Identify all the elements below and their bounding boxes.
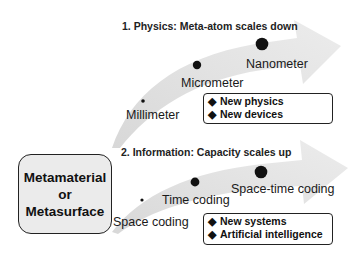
space-time-coding-dot xyxy=(255,166,268,179)
stage-label-space-coding: Space coding xyxy=(113,215,189,229)
stage-label-millimeter: Millimeter xyxy=(126,108,179,122)
outcome-item: ◆Artificial intelligence xyxy=(208,228,328,241)
physics-outcomes-box: ◆New physics ◆New devices xyxy=(203,93,333,124)
information-track-title: 2. Information: Capacity scales up xyxy=(121,146,291,158)
diamond-bullet-icon: ◆ xyxy=(208,228,220,241)
time-coding-dot xyxy=(191,178,200,187)
outcome-item: ◆New devices xyxy=(208,108,328,121)
stage-label-micrometer: Micrometer xyxy=(181,76,244,90)
diamond-bullet-icon: ◆ xyxy=(208,108,220,121)
source-line-1: Metamaterial xyxy=(24,169,107,186)
stage-label-time-coding: Time coding xyxy=(162,193,230,207)
metamaterial-metasurface-box: Metamaterial or Metasurface xyxy=(18,154,112,234)
information-outcomes-box: ◆New systems ◆Artificial intelligence xyxy=(203,213,333,245)
source-line-2: or xyxy=(58,186,72,203)
outcome-item: ◆New physics xyxy=(208,95,328,108)
millimeter-dot xyxy=(141,99,145,103)
diamond-bullet-icon: ◆ xyxy=(208,215,220,228)
stage-label-nanometer: Nanometer xyxy=(246,57,308,71)
outcome-item: ◆New systems xyxy=(208,215,328,228)
stage-label-space-time-coding: Space-time coding xyxy=(231,182,335,196)
diamond-bullet-icon: ◆ xyxy=(208,95,220,108)
nanometer-dot xyxy=(256,38,269,51)
space-coding-dot xyxy=(140,198,143,201)
source-line-3: Metasurface xyxy=(26,203,105,220)
micrometer-dot xyxy=(193,61,201,69)
physics-track-title: 1. Physics: Meta-atom scales down xyxy=(122,20,298,32)
